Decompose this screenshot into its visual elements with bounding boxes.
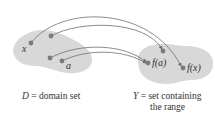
codomain-point-q2 <box>161 49 166 54</box>
domain-point-a <box>60 59 65 64</box>
label-x: x <box>21 43 27 54</box>
codomain-caption-line1: Y = set containing <box>133 91 202 101</box>
label-a: a <box>66 60 71 71</box>
domain-point-2 <box>49 34 54 39</box>
label-fa: f(a) <box>152 57 167 69</box>
codomain-point-fa <box>146 61 151 66</box>
domain-point-3 <box>48 56 53 61</box>
domain-caption-text: = domain set <box>29 91 81 101</box>
function-mapping-diagram: x a f(a) f(x) D = domain set Y = set con… <box>0 0 215 117</box>
domain-point-x <box>29 41 34 46</box>
label-fx: f(x) <box>187 62 202 74</box>
codomain-caption-line2: the range <box>150 102 185 112</box>
domain-caption: D = domain set <box>21 91 81 101</box>
codomain-caption-text: = set containing <box>138 91 201 101</box>
codomain-point-fx <box>181 66 186 71</box>
domain-caption-symbol: D <box>21 91 29 101</box>
